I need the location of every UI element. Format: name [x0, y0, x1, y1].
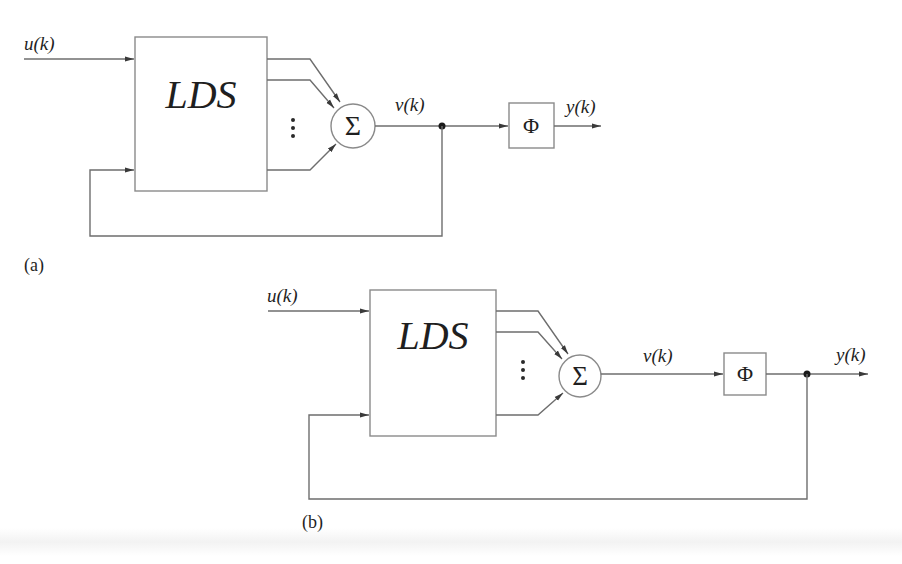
block-diagram-canvas: u(k) LDS Σ v(k) Φ y(k) (a) u — [0, 0, 902, 564]
page-bleedthrough — [0, 528, 902, 556]
ellipsis-icon-b — [521, 360, 525, 380]
lds-output-n-a — [267, 144, 336, 170]
v-label-a: v(k) — [395, 94, 425, 116]
diagram-b: u(k) LDS Σ v(k) Φ y(k) (b) — [267, 285, 868, 533]
lds-label-b: LDS — [396, 313, 468, 358]
output-label-b: y(k) — [834, 344, 866, 366]
panel-label-a: (a) — [24, 255, 44, 276]
phi-icon-a: Φ — [523, 113, 539, 138]
lds-block-b — [370, 290, 496, 436]
ellipsis-icon-a — [291, 118, 295, 138]
input-label-a: u(k) — [24, 33, 55, 55]
phi-icon-b: Φ — [737, 361, 753, 386]
v-label-b: v(k) — [643, 345, 673, 367]
lds-output-n-b — [496, 393, 563, 415]
lds-output-2-b — [496, 332, 562, 359]
lds-output-2-a — [267, 80, 334, 108]
lds-label-a: LDS — [164, 72, 236, 117]
input-label-b: u(k) — [267, 285, 298, 307]
diagram-a: u(k) LDS Σ v(k) Φ y(k) (a) — [24, 33, 601, 276]
sigma-icon-a: Σ — [345, 110, 361, 141]
output-label-a: y(k) — [564, 96, 596, 118]
sigma-icon-b: Σ — [572, 361, 588, 391]
